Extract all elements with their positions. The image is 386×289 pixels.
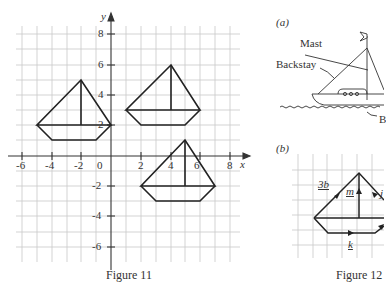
vector-3b-label: 3b [318, 178, 329, 190]
figure11-grid [16, 26, 240, 262]
figure11-axes [8, 13, 250, 270]
part-b-label: (b) [276, 142, 289, 154]
x-tick-label: 2 [138, 159, 144, 171]
x-tick-label: 8 [227, 159, 233, 171]
figure11-caption: Figure 11 [106, 268, 152, 283]
x-tick-label: -6 [16, 159, 25, 171]
x-tick-label: 0 [97, 159, 103, 171]
figure12-caption: Figure 12 [336, 268, 382, 283]
boat-c [141, 140, 215, 201]
part-a-label: (a) [276, 16, 289, 28]
y-tick-label: 2 [98, 118, 104, 130]
x-axis-label: x [240, 158, 245, 170]
y-axis-label: y [101, 10, 106, 22]
y-tick-label: -6 [92, 240, 101, 252]
y-tick-label: -2 [92, 179, 101, 191]
vector-j-label: j [380, 187, 383, 199]
x-tick-label: 4 [168, 159, 174, 171]
sailboat-illustration [280, 32, 384, 116]
y-tick-label: 4 [98, 88, 104, 100]
y-tick-label: -4 [92, 209, 101, 221]
x-tick-label: -2 [74, 159, 83, 171]
b-label: B [379, 113, 386, 125]
backstay-label: Backstay [276, 58, 316, 70]
y-tick-label: 6 [98, 58, 104, 70]
vector-m-label: m [346, 185, 354, 197]
x-tick-label: -4 [45, 159, 54, 171]
y-tick-label: 8 [98, 27, 104, 39]
vector-k-label: k [348, 238, 353, 250]
x-tick-label: 6 [194, 159, 200, 171]
mast-label: Mast [300, 37, 322, 49]
figure12b-grid [292, 154, 384, 258]
